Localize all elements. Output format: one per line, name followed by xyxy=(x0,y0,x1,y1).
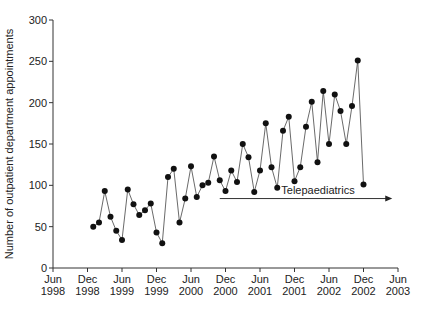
x-tick-label-month: Jun xyxy=(389,273,407,285)
data-point xyxy=(165,174,171,180)
data-point xyxy=(217,177,223,183)
data-point xyxy=(240,141,246,147)
data-point xyxy=(142,207,148,213)
data-point xyxy=(343,141,349,147)
data-point xyxy=(113,228,119,234)
data-point xyxy=(131,201,137,207)
data-point xyxy=(119,237,125,243)
data-point xyxy=(200,182,206,188)
x-tick-label-year: 1998 xyxy=(41,285,65,297)
data-point xyxy=(102,188,108,194)
data-point xyxy=(274,185,280,191)
arrow-head-icon xyxy=(385,196,392,202)
data-point xyxy=(188,163,194,169)
annotation-label: Telepaediatrics xyxy=(281,184,355,196)
x-tick-label-month: Dec xyxy=(285,273,305,285)
y-tick-label: 300 xyxy=(29,14,47,26)
telepaediatrics-annotation: Telepaediatrics xyxy=(220,184,393,202)
data-point xyxy=(182,196,188,202)
data-point xyxy=(228,167,234,173)
data-point xyxy=(315,159,321,165)
data-point xyxy=(349,103,355,109)
data-point xyxy=(159,240,165,246)
y-tick-label: 50 xyxy=(35,221,47,233)
data-point xyxy=(303,124,309,130)
x-tick-label-month: Dec xyxy=(78,273,98,285)
data-point xyxy=(171,166,177,172)
data-point xyxy=(96,220,102,226)
line-chart: 050100150200250300 Jun1998Dec1998Jun1999… xyxy=(0,0,422,312)
data-point xyxy=(90,224,96,230)
data-point xyxy=(297,164,303,170)
x-tick-label-year: 2000 xyxy=(213,285,237,297)
data-point xyxy=(332,91,338,97)
data-point xyxy=(326,141,332,147)
data-point xyxy=(269,164,275,170)
x-tick-label-month: Jun xyxy=(44,273,62,285)
y-axis-label: Number of outpatient department appointm… xyxy=(3,28,15,259)
data-point xyxy=(205,180,211,186)
data-point xyxy=(223,188,229,194)
x-tick-label-year: 2002 xyxy=(317,285,341,297)
x-tick-label-year: 1999 xyxy=(144,285,168,297)
data-point xyxy=(286,114,292,120)
series-line xyxy=(93,61,363,244)
data-point xyxy=(320,88,326,94)
y-tick-label: 100 xyxy=(29,179,47,191)
y-tick-label: 150 xyxy=(29,138,47,150)
data-point xyxy=(246,154,252,160)
x-tick-label-month: Jun xyxy=(320,273,338,285)
data-point xyxy=(280,128,286,134)
x-tick-label-year: 2003 xyxy=(386,285,410,297)
x-tick-label-year: 1999 xyxy=(110,285,134,297)
x-tick-label-year: 2002 xyxy=(351,285,375,297)
data-point xyxy=(361,182,367,188)
data-point xyxy=(251,189,257,195)
data-point xyxy=(177,220,183,226)
x-tick-label-year: 2001 xyxy=(248,285,272,297)
data-point xyxy=(154,229,160,235)
x-tick-label-month: Dec xyxy=(354,273,374,285)
y-tick-label: 200 xyxy=(29,97,47,109)
x-tick-label-year: 2000 xyxy=(179,285,203,297)
x-axis-ticks: Jun1998Dec1998Jun1999Dec1999Jun2000Dec20… xyxy=(41,268,410,297)
data-point xyxy=(211,153,217,159)
y-tick-label: 250 xyxy=(29,55,47,67)
data-point xyxy=(148,201,154,207)
x-tick-label-year: 1998 xyxy=(75,285,99,297)
data-series xyxy=(90,58,366,247)
data-point xyxy=(108,214,114,220)
x-tick-label-month: Dec xyxy=(216,273,236,285)
data-point xyxy=(257,167,263,173)
x-tick-label-month: Jun xyxy=(251,273,269,285)
data-point xyxy=(355,58,361,64)
data-point xyxy=(194,194,200,200)
x-tick-label-month: Jun xyxy=(182,273,200,285)
data-point xyxy=(338,108,344,114)
y-axis-ticks: 050100150200250300 xyxy=(29,14,53,274)
x-tick-label-month: Jun xyxy=(113,273,131,285)
data-point xyxy=(136,212,142,218)
data-point xyxy=(234,179,240,185)
x-tick-label-month: Dec xyxy=(147,273,167,285)
data-point xyxy=(309,99,315,105)
data-point xyxy=(125,186,131,192)
data-point xyxy=(263,120,269,126)
x-tick-label-year: 2001 xyxy=(282,285,306,297)
